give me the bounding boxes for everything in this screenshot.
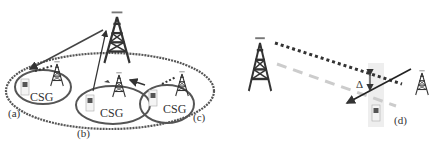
right-panel: Δ (d) [249,38,428,127]
femto-signal-c [162,77,176,84]
phone-icon-b [86,95,94,111]
interference-arrow [130,80,145,85]
csg-label-a: CSG [30,90,54,104]
left-panel: CSG CSG CSG (a) (b) (c) [6,12,214,140]
phone-icon-a [21,79,29,95]
phone-icon-d [372,105,380,121]
label-c: (c) [193,111,206,124]
source-tower-icon [249,38,271,91]
delta-label: Δ [356,78,363,90]
csg-label-b: CSG [100,106,124,120]
label-a: (a) [8,107,21,120]
femto-tower-icon-c [176,72,189,96]
diagram-canvas: CSG CSG CSG (a) (b) (c) Δ (d) [0,0,434,147]
signal-marker-b [104,80,110,83]
femto-tower-icon-b [113,73,126,97]
label-d: (d) [394,114,407,127]
macro-to-ue-arrow [30,30,103,69]
macro-tower-icon [104,12,129,63]
label-b: (b) [77,127,90,140]
csg-label-c: CSG [163,102,187,116]
target-tower-icon [416,71,429,95]
phone-icon-c [149,90,157,106]
